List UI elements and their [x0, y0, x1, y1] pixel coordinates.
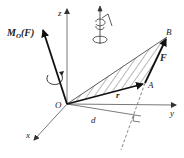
point-a-label: A	[147, 80, 154, 90]
x-axis	[34, 104, 67, 140]
origin-label: O	[55, 100, 62, 110]
right-angle-mark	[133, 115, 140, 122]
y-axis	[67, 104, 176, 105]
moment-diagram: MO(F) z y x O A B F r d	[0, 0, 184, 158]
y-axis-label: y	[169, 108, 174, 118]
moment-vector	[43, 30, 67, 104]
z-axis-label: z	[57, 8, 62, 18]
distance-label: d	[91, 115, 96, 125]
right-hand-rule-icon	[93, 6, 112, 44]
point-b-label: B	[166, 27, 172, 37]
position-label: r	[116, 90, 120, 100]
rotation-arrow-icon	[47, 71, 64, 85]
force-label: F	[159, 52, 167, 63]
moment-label: MO(F)	[6, 27, 34, 40]
x-axis-label: x	[25, 130, 30, 140]
distance-line	[67, 104, 141, 116]
line-of-action	[121, 83, 145, 150]
